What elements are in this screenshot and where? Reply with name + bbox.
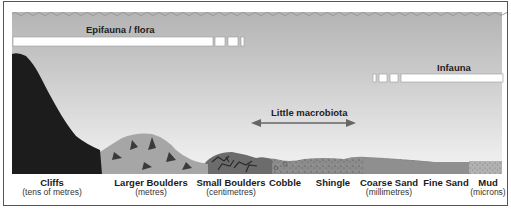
epifauna-bar-segment bbox=[215, 37, 225, 46]
diagram-frame: Epifauna / flora Infauna Little macrobio… bbox=[3, 1, 508, 206]
substrate-label-coarse-sand: Coarse Sand (millimetres) bbox=[354, 178, 424, 198]
infauna-bar bbox=[401, 74, 503, 82]
infauna-bar-segment bbox=[390, 74, 398, 82]
epifauna-label: Epifauna / flora bbox=[86, 24, 155, 35]
substrate-label-shingle: Shingle bbox=[308, 178, 358, 188]
substrate-label-larger-boulders: Larger Boulders (metres) bbox=[106, 178, 196, 198]
epifauna-bar bbox=[13, 37, 213, 46]
infauna-label: Infauna bbox=[437, 62, 471, 73]
epifauna-bar-segment bbox=[241, 37, 244, 46]
infauna-bar-segment bbox=[379, 74, 387, 82]
substrate-label-mud: Mud (microns) bbox=[466, 178, 510, 198]
sediment-mud bbox=[469, 161, 502, 174]
substrate-label-cobble: Cobble bbox=[260, 178, 310, 188]
substrate-label-cliffs: Cliffs (tens of metres) bbox=[12, 178, 92, 198]
epifauna-bar-segment bbox=[228, 37, 238, 46]
infauna-bar-segment bbox=[373, 74, 376, 82]
little-macrobiota-label: Little macrobiota bbox=[271, 107, 348, 118]
shore-profile-illustration bbox=[4, 2, 507, 205]
